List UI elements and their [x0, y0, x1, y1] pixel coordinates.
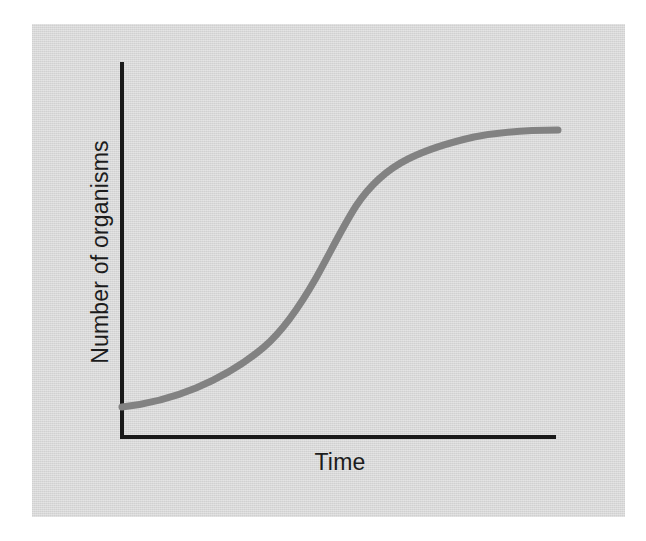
- figure-root: Number of organisms Time: [0, 0, 646, 541]
- population-growth-curve: [122, 130, 558, 407]
- x-axis-label: Time: [314, 449, 365, 476]
- y-axis-label: Number of organisms: [87, 140, 114, 364]
